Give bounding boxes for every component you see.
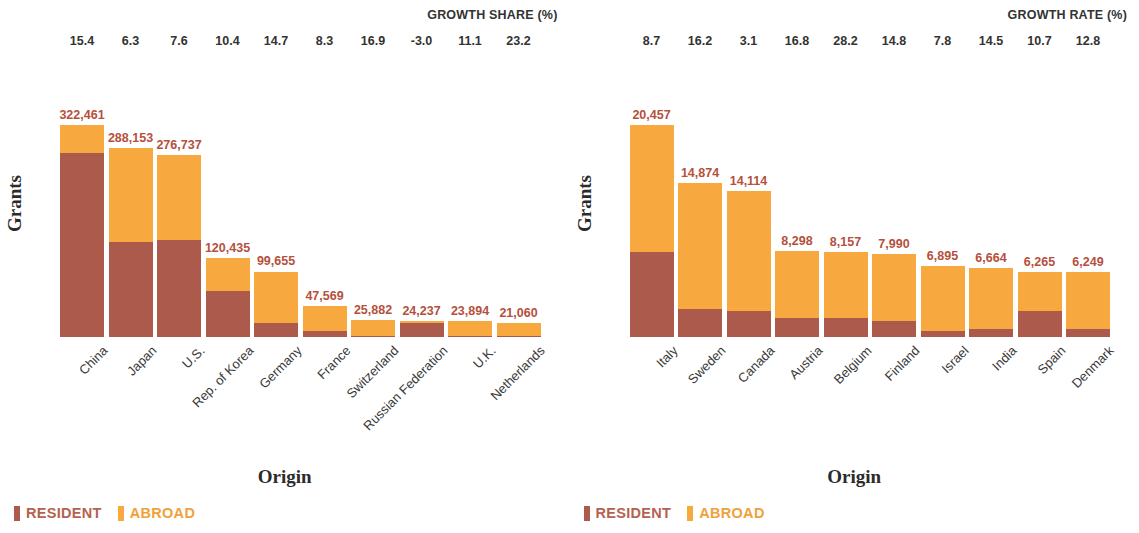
bar-segment-resident xyxy=(872,321,916,337)
x-tick-label: Finland xyxy=(882,343,923,384)
bar-segment-abroad xyxy=(1018,272,1062,311)
bar-segment-resident xyxy=(1018,311,1062,337)
bar-value-label: 21,060 xyxy=(499,306,537,320)
bar-austria[interactable]: 8,298 xyxy=(775,251,819,337)
bar-segment-resident xyxy=(921,331,965,337)
bar-segment-resident xyxy=(775,318,819,337)
bar-germany[interactable]: 99,655 xyxy=(254,271,298,337)
bar-value-label: 120,435 xyxy=(205,241,250,255)
bar-india[interactable]: 6,664 xyxy=(969,268,1013,337)
bar-segment-abroad xyxy=(303,306,347,331)
plot-area-growth-rate: 20,457Italy14,874Sweden14,114Canada8,298… xyxy=(570,0,1139,533)
legend-swatch-abroad-icon xyxy=(118,506,124,521)
x-axis-title-left: Origin xyxy=(0,466,570,488)
bar-israel[interactable]: 6,895 xyxy=(921,266,965,337)
legend-label-abroad: ABROAD xyxy=(699,505,764,521)
bar-segment-abroad xyxy=(157,155,201,240)
plot-area-growth-share: 322,461China288,153Japan276,737U.S.120,4… xyxy=(0,0,570,533)
bar-value-label: 6,265 xyxy=(1024,255,1055,269)
legend-item-abroad: ABROAD xyxy=(118,505,195,521)
x-axis-title-right: Origin xyxy=(570,466,1139,488)
bar-russian-federation[interactable]: 24,237 xyxy=(400,321,444,337)
bar-denmark[interactable]: 6,249 xyxy=(1066,272,1110,337)
bar-segment-abroad xyxy=(206,258,250,291)
bar-segment-resident xyxy=(678,309,722,337)
bar-segment-resident xyxy=(60,153,104,337)
bar-china[interactable]: 322,461 xyxy=(60,125,104,337)
legend-swatch-resident-icon xyxy=(14,506,20,521)
bar-u-s-[interactable]: 276,737 xyxy=(157,155,201,337)
bar-segment-abroad xyxy=(1066,272,1110,328)
legend-label-abroad: ABROAD xyxy=(130,505,195,521)
bar-finland[interactable]: 7,990 xyxy=(872,254,916,337)
bar-segment-resident xyxy=(448,336,492,337)
bar-value-label: 7,990 xyxy=(878,237,909,251)
bar-segment-abroad xyxy=(921,266,965,331)
bar-u-k-[interactable]: 23,894 xyxy=(448,321,492,337)
legend-right: RESIDENT ABROAD xyxy=(584,505,765,521)
bar-sweden[interactable]: 14,874 xyxy=(678,183,722,337)
bar-france[interactable]: 47,569 xyxy=(303,306,347,337)
bar-spain[interactable]: 6,265 xyxy=(1018,272,1062,337)
legend-left: RESIDENT ABROAD xyxy=(14,505,195,521)
bar-segment-abroad xyxy=(727,191,771,311)
bar-rep-of-korea[interactable]: 120,435 xyxy=(206,258,250,337)
bar-value-label: 276,737 xyxy=(156,138,201,152)
legend-swatch-resident-icon xyxy=(584,506,590,521)
legend-item-resident: RESIDENT xyxy=(14,505,102,521)
bar-value-label: 14,114 xyxy=(730,174,768,188)
bar-value-label: 8,157 xyxy=(830,235,861,249)
legend-item-resident: RESIDENT xyxy=(584,505,672,521)
x-tick-label: Germany xyxy=(256,343,304,391)
bar-value-label: 6,895 xyxy=(927,249,958,263)
x-tick-label: Japan xyxy=(123,343,159,379)
panel-growth-share: GROWTH SHARE (%) 15.46.37.610.414.78.316… xyxy=(0,0,570,533)
bar-value-label: 24,237 xyxy=(402,304,440,318)
bar-segment-resident xyxy=(630,252,674,337)
legend-label-resident: RESIDENT xyxy=(596,505,672,521)
bar-segment-resident xyxy=(351,336,395,337)
bar-value-label: 99,655 xyxy=(257,254,295,268)
bar-segment-resident xyxy=(969,329,1013,337)
y-axis-title-left: Grants xyxy=(4,175,26,232)
bar-segment-abroad xyxy=(775,251,819,318)
bar-segment-abroad xyxy=(969,268,1013,329)
bar-segment-resident xyxy=(254,323,298,337)
legend-label-resident: RESIDENT xyxy=(26,505,102,521)
bar-value-label: 8,298 xyxy=(781,234,812,248)
bar-italy[interactable]: 20,457 xyxy=(630,125,674,337)
x-tick-label: Israel xyxy=(938,343,971,376)
x-tick-label: Russian Federation xyxy=(360,343,450,433)
x-tick-label: Austria xyxy=(786,343,825,382)
bar-value-label: 322,461 xyxy=(59,108,104,122)
bar-segment-abroad xyxy=(60,125,104,153)
bar-segment-resident xyxy=(109,242,153,337)
bar-segment-abroad xyxy=(497,323,541,335)
x-tick-label: China xyxy=(76,343,111,378)
x-tick-label: France xyxy=(314,343,353,382)
bar-segment-resident xyxy=(157,240,201,337)
bar-segment-resident xyxy=(824,318,868,337)
bar-value-label: 288,153 xyxy=(108,131,153,145)
x-tick-label: Spain xyxy=(1034,343,1068,377)
bar-segment-resident xyxy=(727,311,771,337)
bar-japan[interactable]: 288,153 xyxy=(109,148,153,337)
bar-value-label: 6,249 xyxy=(1072,255,1103,269)
bar-belgium[interactable]: 8,157 xyxy=(824,252,868,337)
stacked-bar-chart-figure: GROWTH SHARE (%) 15.46.37.610.414.78.316… xyxy=(0,0,1139,533)
legend-item-abroad: ABROAD xyxy=(687,505,764,521)
panel-growth-rate: GROWTH RATE (%) 8.716.23.116.828.214.87.… xyxy=(570,0,1139,533)
x-tick-label: Sweden xyxy=(685,343,729,387)
bar-segment-abroad xyxy=(630,125,674,252)
bar-canada[interactable]: 14,114 xyxy=(727,191,771,337)
bar-segment-abroad xyxy=(351,320,395,336)
x-tick-label: India xyxy=(989,343,1020,374)
bar-netherlands[interactable]: 21,060 xyxy=(497,323,541,337)
bar-segment-abroad xyxy=(872,254,916,321)
bar-segment-abroad xyxy=(678,183,722,309)
x-tick-label: Italy xyxy=(653,343,680,370)
x-tick-label: U.S. xyxy=(179,343,207,371)
bar-switzerland[interactable]: 25,882 xyxy=(351,320,395,337)
x-tick-label: Belgium xyxy=(830,343,874,387)
x-tick-label: U.K. xyxy=(470,343,498,371)
